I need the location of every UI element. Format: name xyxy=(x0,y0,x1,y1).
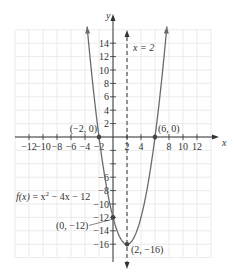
y-axis-label: y xyxy=(105,10,111,21)
point-label-y-intercept: (0, −12) xyxy=(56,220,88,232)
symmetry-arrow-down-icon xyxy=(125,262,130,269)
y-tick-label: −10 xyxy=(93,199,109,210)
x-tick-label: −10 xyxy=(35,141,51,152)
point-label-x-intercept-right: (6, 0) xyxy=(158,123,180,135)
x-tick-label: −6 xyxy=(66,141,77,152)
symmetry-label: x = 2 xyxy=(132,42,154,53)
symmetry-arrow-up-icon xyxy=(125,30,130,37)
parabola-chart: xy −12−10−8−6−4−224810122468101214−6−8−1… xyxy=(0,0,234,275)
x-axis-arrow-icon xyxy=(212,135,219,140)
key-point xyxy=(111,215,116,220)
y-tick-label: −12 xyxy=(93,212,109,223)
y-tick-label: 6 xyxy=(104,91,109,102)
key-point xyxy=(153,135,158,140)
y-tick-label: 2 xyxy=(104,118,109,129)
y-tick-label: 12 xyxy=(99,51,109,62)
key-point xyxy=(125,242,130,247)
point-label-vertex: (2, −16) xyxy=(131,244,163,256)
key-point xyxy=(97,135,102,140)
y-tick-label: 4 xyxy=(104,105,109,116)
y-tick-label: 14 xyxy=(99,38,109,49)
function-label: f(x) = x2 − 4x − 12 xyxy=(16,190,90,203)
axes: xy xyxy=(15,10,227,262)
point-label-x-intercept-left: (−2, 0) xyxy=(70,123,97,135)
x-tick-label: 10 xyxy=(178,141,188,152)
x-tick-label: −2 xyxy=(94,141,105,152)
y-tick-label: 10 xyxy=(99,65,109,76)
x-tick-label: 12 xyxy=(192,141,202,152)
y-tick-label: 8 xyxy=(104,78,109,89)
x-tick-label: −8 xyxy=(52,141,63,152)
x-tick-label: −4 xyxy=(80,141,91,152)
y-tick-label: −14 xyxy=(93,225,109,236)
x-tick-label: 4 xyxy=(139,141,144,152)
y-tick-label: −16 xyxy=(93,239,109,250)
x-tick-label: 8 xyxy=(167,141,172,152)
x-axis-label: x xyxy=(221,137,227,148)
y-axis-arrow-icon xyxy=(111,14,116,21)
